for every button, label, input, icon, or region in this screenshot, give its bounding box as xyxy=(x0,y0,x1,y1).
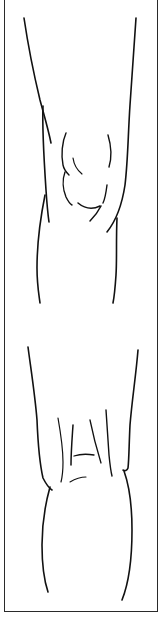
back-right-calf-line xyxy=(122,471,132,600)
back-left-calf-line xyxy=(42,487,50,592)
front-right-thigh-line xyxy=(107,18,136,232)
back-knee-crease xyxy=(74,454,94,456)
patella-right-arc xyxy=(108,135,111,167)
front-knee-view xyxy=(24,18,136,303)
illustration-canvas xyxy=(0,0,162,621)
patella-left-lower-arc xyxy=(63,172,72,205)
back-knee-view xyxy=(28,347,138,600)
back-right-thigh-line xyxy=(123,350,138,471)
knee-drawing xyxy=(0,0,162,621)
back-left-thigh-line xyxy=(28,347,52,490)
front-left-shin-line xyxy=(37,195,45,303)
patella-left-upper-arc xyxy=(62,133,69,175)
patella-bottom-curve xyxy=(78,203,100,208)
front-right-shin-line xyxy=(113,218,117,303)
front-left-thigh-line xyxy=(24,18,51,143)
back-inner-line-1 xyxy=(58,418,63,482)
back-inner-line-4 xyxy=(106,410,112,476)
patella-inner-arc xyxy=(73,158,82,174)
patella-right-lower-line xyxy=(103,185,107,203)
back-inner-line-2 xyxy=(71,425,73,465)
back-knee-lower-curve xyxy=(70,477,86,482)
back-inner-line-3 xyxy=(90,420,101,463)
